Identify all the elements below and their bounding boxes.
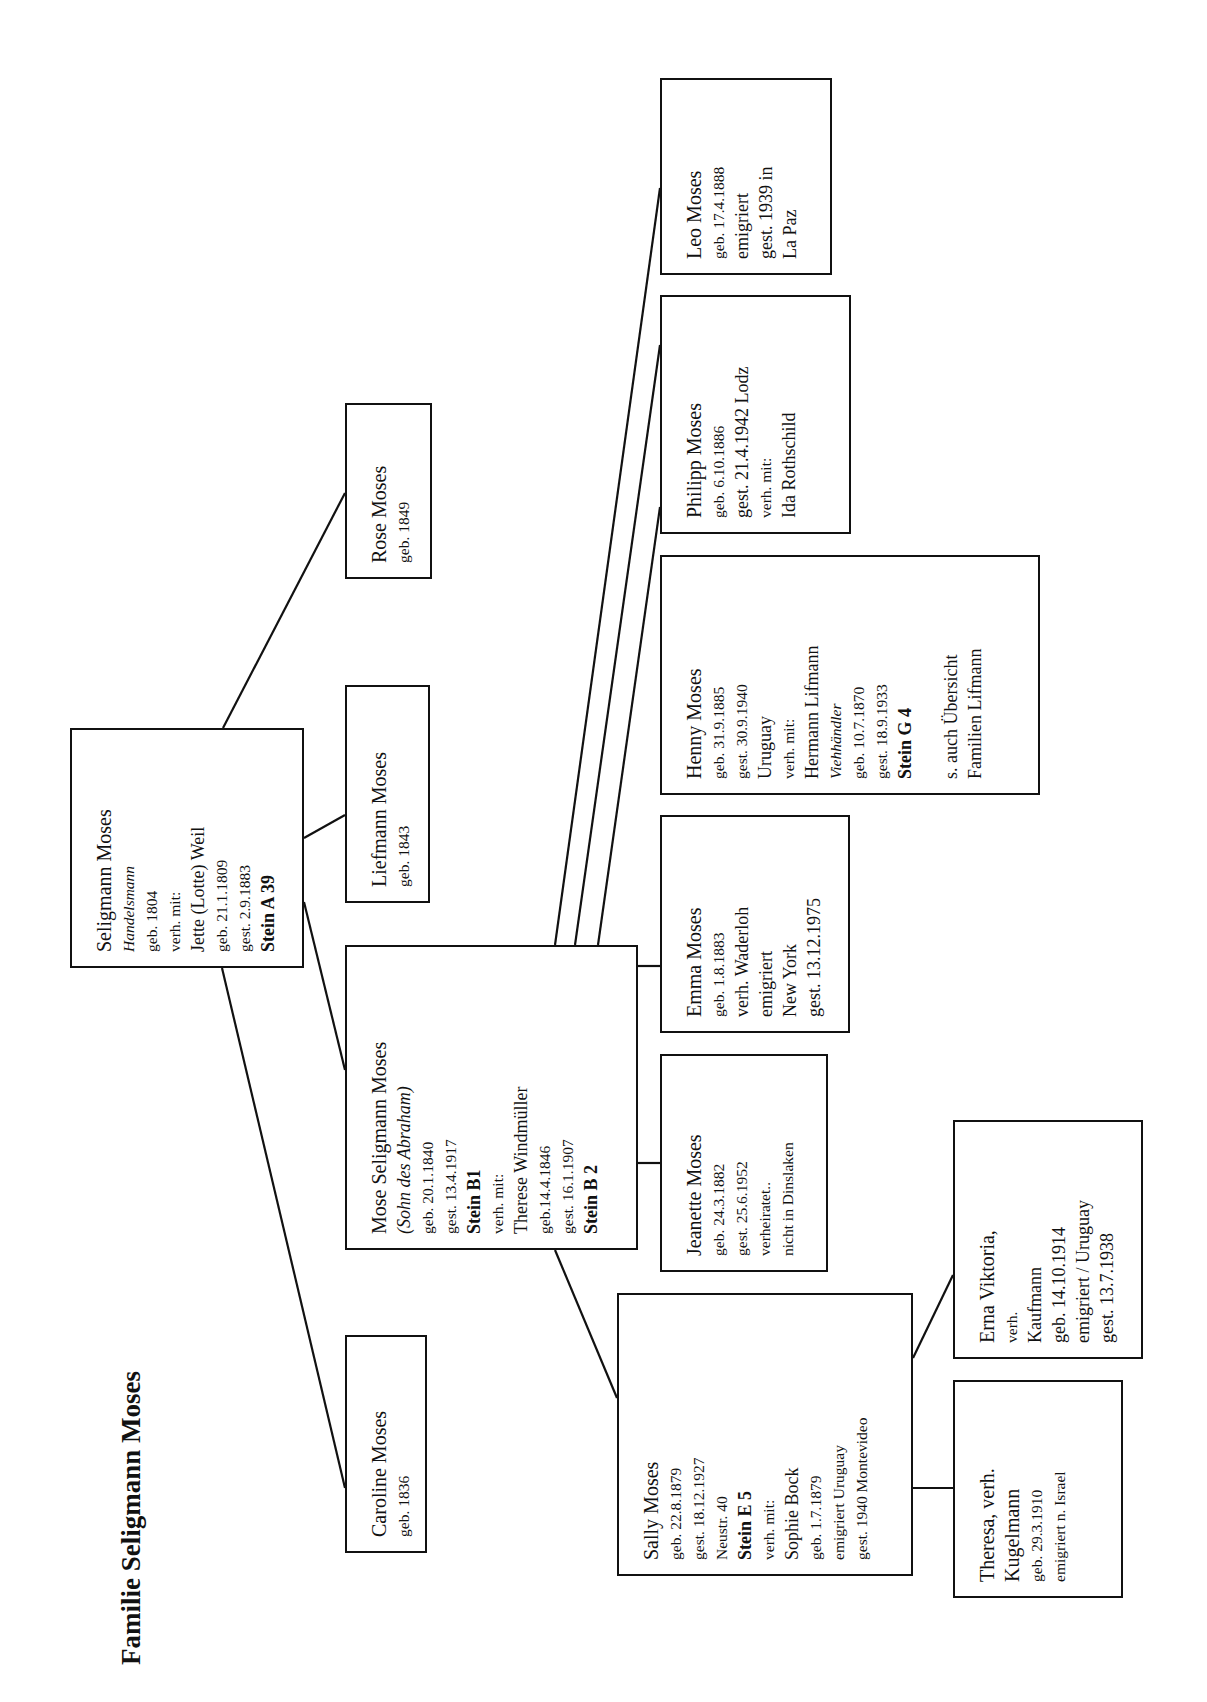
person-name: Henny Moses [682, 563, 707, 779]
grave-stone: Stein E 5 [733, 1301, 757, 1560]
birth-date: geb. 1.8.1883 [707, 823, 730, 1017]
spouse-name: Therese Windmüller [509, 953, 533, 1234]
person-box-leo: Leo Moses geb. 17.4.1888 emigriert gest.… [660, 78, 832, 275]
person-box-seligmann: Seligmann Moses Handelsmann geb. 1804 ve… [70, 728, 304, 968]
married-name: verh. Waderloh [730, 823, 754, 1017]
birth-date: geb. 1804 [140, 736, 163, 952]
person-name: Rose Moses [367, 411, 392, 563]
spouse-grave-stone: Stein G 4 [893, 563, 917, 779]
birth-date: geb. 31.9.1885 [707, 563, 730, 779]
person-box-sally: Sally Moses geb. 22.8.1879 gest. 18.12.1… [617, 1293, 913, 1576]
birth-date: geb. 1849 [392, 411, 415, 563]
residence-note: nicht in Dinslaken [776, 1062, 799, 1256]
emigration-note: emigriert n. Israel [1048, 1388, 1071, 1582]
spouse-birth-date: geb. 1.7.1879 [804, 1301, 827, 1560]
death-date: gest. 13.12.1975 [802, 823, 826, 1017]
birth-date: geb. 24.3.1882 [707, 1062, 730, 1256]
person-name: Liefmann Moses [367, 693, 392, 887]
person-name: Leo Moses [682, 86, 707, 259]
death-date: gest. 25.6.1952 [730, 1062, 753, 1256]
married-label: verh. mit: [757, 1301, 780, 1560]
birth-date: geb. 20.1.1840 [416, 953, 439, 1234]
emigration-note: emigriert [730, 86, 754, 259]
spouse-grave-stone: Stein B 2 [579, 953, 603, 1234]
cross-reference-note: s. auch Übersicht [939, 563, 963, 779]
spouse-birth-date: geb.14.4.1846 [533, 953, 556, 1234]
death-date: gest. 13.7.1938 [1095, 1128, 1119, 1343]
emigration-note: emigriert [754, 823, 778, 1017]
person-name: Caroline Moses [367, 1343, 392, 1537]
married-name: Kugelmann [1000, 1388, 1025, 1582]
birth-date: geb. 14.10.1914 [1047, 1128, 1071, 1343]
person-box-emma: Emma Moses geb. 1.8.1883 verh. Waderloh … [660, 815, 850, 1033]
family-tree-page: Familie Seligmann Moses Seligmann Moses … [0, 0, 1207, 1702]
death-date: gest. 1939 in [754, 86, 778, 259]
spouse-name: Ida Rothschild [777, 303, 801, 518]
death-date: gest. 18.12.1927 [687, 1301, 710, 1560]
birth-date: geb. 17.4.1888 [707, 86, 730, 259]
person-name: Emma Moses [682, 823, 707, 1017]
marital-status: verheiratet.. [753, 1062, 776, 1256]
married-label: verh. mit: [163, 736, 186, 952]
grave-stone: Stein B1 [462, 953, 486, 1234]
birth-date: geb. 6.10.1886 [707, 303, 730, 518]
birth-date: geb. 29.3.1910 [1025, 1388, 1048, 1582]
birth-date: geb. 1843 [392, 693, 415, 887]
birth-date: geb. 1836 [392, 1343, 415, 1537]
married-label: verh. mit: [754, 303, 777, 518]
spouse-name: Sophie Bock [780, 1301, 804, 1560]
birth-date: geb. 22.8.1879 [664, 1301, 687, 1560]
connector-seligmann-caroline [222, 968, 345, 1488]
cross-reference-note-2: Familien Lifmann [963, 563, 987, 779]
spouse-birth-date: geb. 21.1.1809 [210, 736, 233, 952]
connector-seligmann-rose [223, 493, 345, 728]
married-name: Kaufmann [1023, 1128, 1047, 1343]
occupation: Handelsmann [117, 736, 140, 952]
married-label: verh. [1000, 1128, 1023, 1343]
spouse-death-date: gest. 18.9.1933 [870, 563, 893, 779]
person-box-rose: Rose Moses geb. 1849 [345, 403, 432, 579]
grave-stone: Stein A 39 [256, 736, 280, 952]
connector-mose-philipp [575, 345, 660, 945]
death-date: gest. 21.4.1942 Lodz [730, 303, 754, 518]
married-label: verh. mit: [486, 953, 509, 1234]
emigration-note: emigriert / Uruguay [1071, 1128, 1095, 1343]
person-box-philipp: Philipp Moses geb. 6.10.1886 gest. 21.4.… [660, 295, 851, 534]
person-name: Mose Seligmann Moses [367, 953, 392, 1234]
spouse-name: Hermann Lifmann [800, 563, 824, 779]
connector-sally-erna [913, 1275, 953, 1358]
person-name: Theresa, verh. [975, 1388, 1000, 1582]
person-name: Erna Viktoria, [975, 1128, 1000, 1343]
person-box-liefmann: Liefmann Moses geb. 1843 [345, 685, 430, 903]
connector-seligmann-liefmann [304, 815, 345, 838]
spouse-death-date: gest. 16.1.1907 [556, 953, 579, 1234]
spouse-death-date: gest. 2.9.1883 [233, 736, 256, 952]
death-place: Uruguay [753, 563, 777, 779]
address: Neustr. 40 [710, 1301, 733, 1560]
parentage-note: (Sohn des Abraham) [392, 953, 416, 1234]
person-box-caroline: Caroline Moses geb. 1836 [345, 1335, 427, 1553]
person-name: Sally Moses [639, 1301, 664, 1560]
connector-mose-henny [598, 507, 660, 945]
death-place: La Paz [778, 86, 802, 259]
spouse-name: Jette (Lotte) Weil [186, 736, 210, 952]
person-name: Jeanette Moses [682, 1062, 707, 1256]
spouse-birth-date: geb. 10.7.1870 [847, 563, 870, 779]
person-box-theresa: Theresa, verh. Kugelmann geb. 29.3.1910 … [953, 1380, 1123, 1598]
connector-mose-leo [555, 188, 660, 945]
death-date: gest. 13.4.1917 [439, 953, 462, 1234]
spouse-occupation: Viehhändler [824, 563, 847, 779]
person-box-henny: Henny Moses geb. 31.9.1885 gest. 30.9.19… [660, 555, 1040, 795]
person-box-jeanette: Jeanette Moses geb. 24.3.1882 gest. 25.6… [660, 1054, 828, 1272]
person-name: Seligmann Moses [92, 736, 117, 952]
page-title: Familie Seligmann Moses [116, 1371, 147, 1665]
person-name: Philipp Moses [682, 303, 707, 518]
person-box-mose: Mose Seligmann Moses (Sohn des Abraham) … [345, 945, 638, 1250]
spouse-emigration: emigriert Uruguay [827, 1301, 850, 1560]
spouse-death: gest. 1940 Montevideo [850, 1301, 873, 1560]
death-date: gest. 30.9.1940 [730, 563, 753, 779]
connector-seligmann-mose [304, 902, 345, 1070]
person-box-erna: Erna Viktoria, verh. Kaufmann geb. 14.10… [953, 1120, 1143, 1359]
married-label: verh. mit: [777, 563, 800, 779]
emigration-place: New York [778, 823, 802, 1017]
